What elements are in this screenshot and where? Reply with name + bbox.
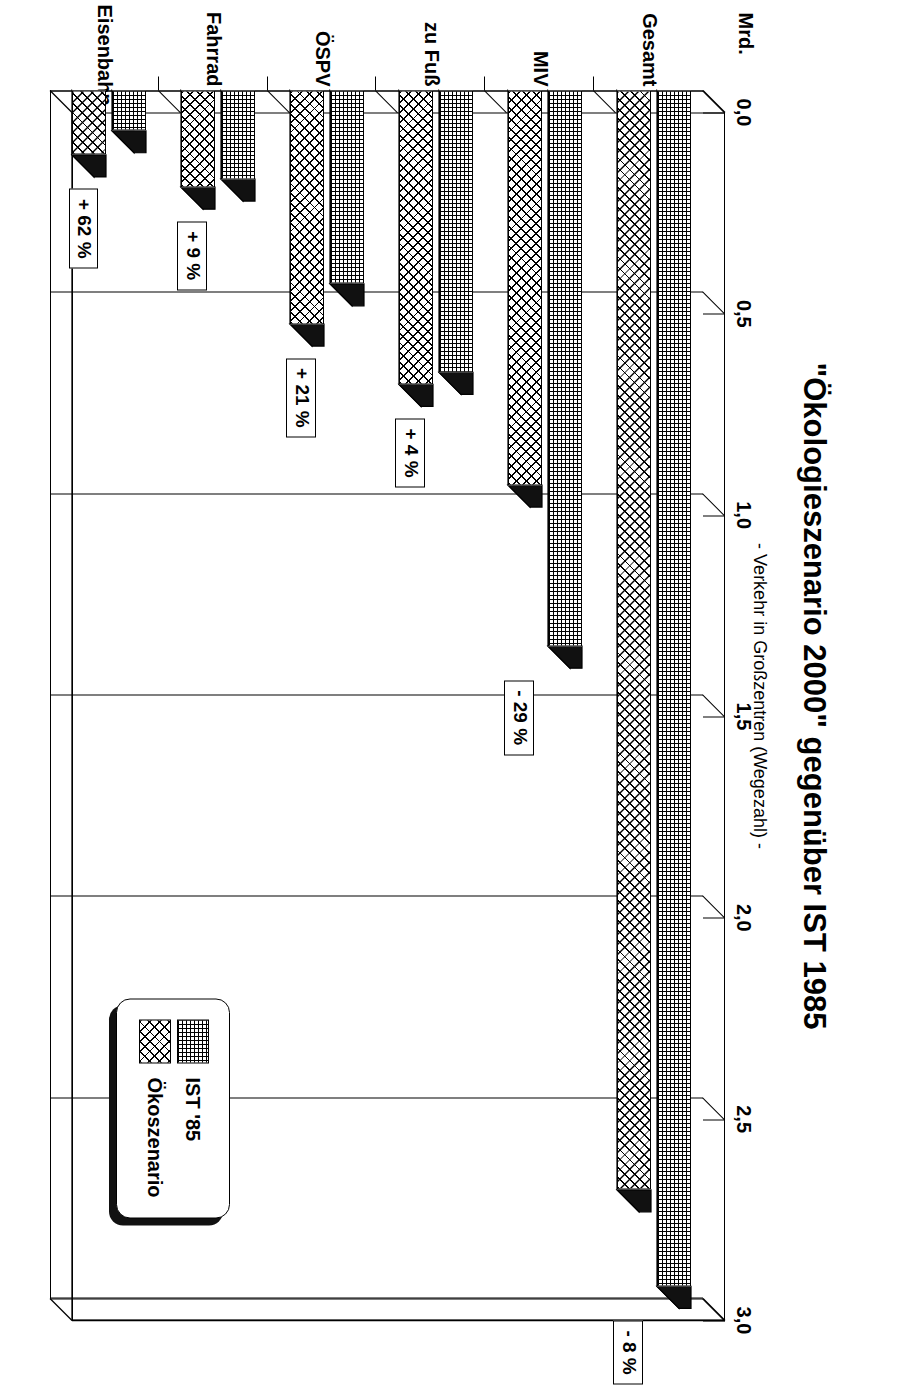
category-label: MIV xyxy=(528,4,551,86)
category-label: Eisenbahn xyxy=(93,4,116,86)
page-rotation-wrapper: "Ökologieszenario 2000" gegenüber IST 19… xyxy=(0,0,918,1391)
bar-front-face xyxy=(181,90,215,187)
category-label: Fahrrad xyxy=(202,4,225,86)
value-axis-tick-label: 1,0 xyxy=(732,501,755,529)
legend-item: Ökoszenario xyxy=(139,1019,171,1197)
bar-front-face xyxy=(330,90,364,283)
category-label: zu Fuß xyxy=(419,4,442,86)
category-label: Gesamt xyxy=(637,4,660,86)
legend-swatch-oko-icon xyxy=(139,1019,171,1063)
gridline-back xyxy=(703,313,725,314)
bar-oko-1 xyxy=(486,90,542,507)
value-axis-tick-label: 1,5 xyxy=(732,702,755,730)
percent-change-annotation: - 8 % xyxy=(613,1320,643,1384)
category-tick xyxy=(484,76,485,90)
percent-change-annotation: + 62 % xyxy=(69,188,99,268)
category-tick xyxy=(267,76,268,90)
category-tick xyxy=(593,76,594,90)
gridline-back xyxy=(703,515,725,516)
legend-swatch-ist-icon xyxy=(177,1019,209,1063)
bar-front-face xyxy=(112,90,146,130)
gridline-back xyxy=(703,1320,725,1321)
bar-front-face xyxy=(290,90,324,324)
gridline xyxy=(50,1298,703,1299)
value-axis-tick-label: 0,5 xyxy=(732,299,755,327)
bar-front-face xyxy=(508,90,542,485)
bar-front-face xyxy=(221,90,255,179)
bar-oko-0 xyxy=(595,90,651,1211)
category-tick xyxy=(158,76,159,90)
bar-front-face xyxy=(439,90,473,372)
bar-front-face xyxy=(72,90,106,154)
bar-front-face xyxy=(548,90,582,646)
chart-figure: "Ökologieszenario 2000" gegenüber IST 19… xyxy=(0,0,918,1391)
category-tick xyxy=(376,76,377,90)
bar-oko-2 xyxy=(377,90,433,406)
title-block: "Ökologieszenario 2000" gegenüber IST 19… xyxy=(749,0,832,1391)
bar-front-face xyxy=(657,90,691,1286)
percent-change-annotation: + 21 % xyxy=(286,358,316,438)
gridline-back xyxy=(703,917,725,918)
bar-oko-4 xyxy=(159,90,215,209)
chart-legend: IST '85 Ökoszenario xyxy=(116,998,230,1218)
gridline-back xyxy=(703,112,725,113)
legend-label: Ökoszenario xyxy=(144,1077,167,1197)
bar-oko-5 xyxy=(50,90,106,176)
category-label: ÖSPV xyxy=(311,4,334,86)
plot-area: Mrd. 0,00,51,01,52,02,53,0 GesamtMIVzu F… xyxy=(28,90,703,1320)
value-axis-tick-label: 0,0 xyxy=(732,98,755,126)
page-subtitle: - Verkehr in Großzentren (Wegezahl) - xyxy=(749,0,770,1391)
legend-label: IST '85 xyxy=(182,1077,205,1141)
value-axis-tick-label: 3,0 xyxy=(732,1306,755,1334)
bar-front-face xyxy=(399,90,433,384)
percent-change-annotation: - 29 % xyxy=(504,680,534,755)
gridline-back xyxy=(703,716,725,717)
percent-change-annotation: + 4 % xyxy=(395,418,425,487)
value-axis-tick-label: 2,5 xyxy=(732,1105,755,1133)
gridline-depth-edge xyxy=(702,90,725,113)
percent-change-annotation: + 9 % xyxy=(177,221,207,290)
legend-item: IST '85 xyxy=(177,1019,209,1197)
bar-oko-3 xyxy=(268,90,324,346)
page-title: "Ökologieszenario 2000" gegenüber IST 19… xyxy=(796,0,832,1391)
axis-unit-label: Mrd. xyxy=(734,12,757,54)
bar-front-face xyxy=(617,90,651,1189)
gridline-back xyxy=(703,1119,725,1120)
value-axis-tick-label: 2,0 xyxy=(732,903,755,931)
